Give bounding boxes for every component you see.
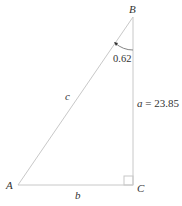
right-angle-marker bbox=[124, 176, 133, 185]
vertex-label-b: B bbox=[129, 3, 136, 15]
vertex-label-c: C bbox=[137, 182, 145, 194]
side-a-value: = 23.85 bbox=[143, 97, 180, 109]
side-c-line bbox=[18, 17, 133, 185]
vertex-label-a: A bbox=[5, 179, 13, 191]
side-c-label: c bbox=[65, 90, 70, 102]
angle-b-arc bbox=[115, 43, 133, 50]
right-triangle-diagram: B A C 0.62 c b a = 23.85 bbox=[0, 0, 182, 206]
angle-b-value: 0.62 bbox=[113, 53, 131, 64]
side-b-label: b bbox=[75, 189, 81, 201]
side-a-label: a = 23.85 bbox=[137, 97, 179, 109]
